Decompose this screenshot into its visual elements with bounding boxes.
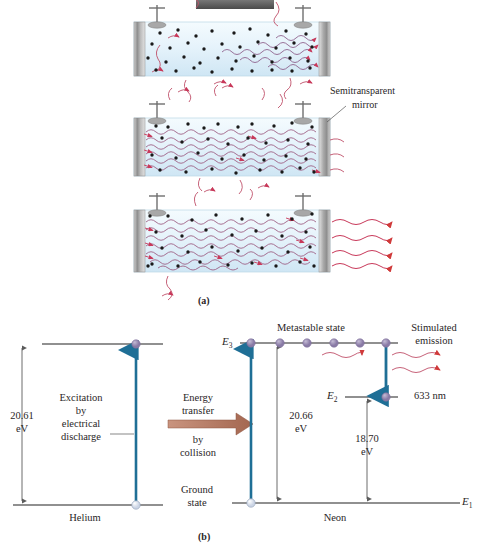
electrode (148, 193, 166, 216)
excitation-line-4: discharge (52, 431, 110, 443)
e2-subscript: 2 (334, 395, 338, 404)
neon-pump-value: 20.66 (282, 410, 320, 422)
transfer-line-2: transfer (168, 405, 228, 417)
ground-state-label-1: Ground (168, 484, 226, 496)
ground-electron-dot (132, 501, 140, 509)
electrode (148, 5, 166, 28)
stimulated-emission-label-1: Stimulated (392, 322, 476, 334)
e3-subscript: 3 (229, 341, 233, 350)
metastable-state-label: Metastable state (277, 322, 345, 334)
electrode (294, 193, 312, 216)
neon-pump-unit: eV (282, 423, 320, 435)
neon-e2-dot (382, 393, 390, 401)
semitransparent-mirror (319, 22, 330, 76)
helium-energy-unit: eV (4, 423, 40, 435)
electrode (294, 5, 312, 28)
transfer-line-4: collision (168, 447, 228, 459)
helium-atom-label: Helium (56, 512, 114, 524)
semitransparent-mirror (319, 210, 330, 272)
mirror-label: mirror (352, 99, 378, 110)
excitation-line-1: Excitation (52, 392, 110, 404)
neon-decay-value: 18.70 (348, 433, 386, 445)
neon-decay-unit: eV (348, 446, 386, 458)
e2-letter: E (327, 389, 334, 401)
panel-a-caption: (a) (198, 295, 210, 306)
wavelength-label: 633 nm (414, 390, 446, 402)
e1-letter: E (462, 495, 469, 507)
fully-reflecting-mirror (134, 210, 145, 272)
panel-b-caption: (b) (198, 531, 210, 542)
fully-reflecting-mirror (134, 118, 145, 176)
e1-subscript: 1 (469, 501, 473, 510)
transfer-line-3: by (168, 434, 228, 446)
level-label-e1: E1 (462, 495, 472, 511)
ground-state-label-2: state (168, 497, 226, 509)
level-label-e2: E2 (327, 389, 337, 405)
figure-canvas (0, 0, 478, 559)
mirror-leader-line (327, 106, 346, 122)
neon-atom-label: Neon (305, 512, 365, 524)
level-label-e3: E3 (222, 335, 232, 351)
tube-stage-2 (134, 85, 344, 194)
excitation-line-2: by (52, 405, 110, 417)
semitransparent-label: Semitransparent (330, 85, 395, 96)
helium-energy-value: 20.61 (4, 410, 40, 422)
electrode (294, 101, 312, 124)
power-supply-bar (196, 0, 274, 9)
neon-ground-dot (247, 499, 255, 507)
electrode (148, 101, 166, 124)
stimulated-photon-waves (322, 353, 440, 373)
output-laser-beams (332, 220, 392, 269)
neon-diagram (232, 339, 460, 507)
excited-electron-dot (132, 340, 140, 348)
fully-reflecting-mirror (134, 22, 145, 76)
tube-stage-3 (134, 186, 392, 300)
transfer-line-1: Energy (168, 392, 228, 404)
stimulated-emission-label-2: emission (392, 335, 476, 347)
semitransparent-mirror (319, 118, 330, 176)
excitation-line-3: electrical (52, 418, 110, 430)
laser-figure: Semitransparent mirror (a) 20.61 eV Exci… (0, 0, 478, 559)
e3-letter: E (222, 335, 229, 347)
